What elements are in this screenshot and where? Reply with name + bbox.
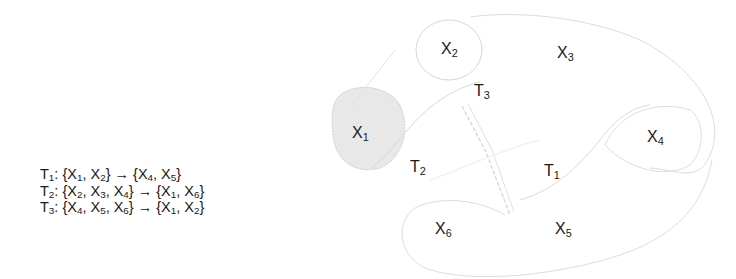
node-x4-sub: 4 [658,135,664,147]
t3-arrow [462,106,510,215]
node-x6-sub: 6 [446,227,452,239]
node-x2: X2 [441,40,458,58]
t1-curve [520,105,650,200]
node-x1-sub: 1 [363,131,369,143]
node-x3: X3 [557,44,574,62]
transition-t3: T3 [474,82,490,100]
transition-t2-sub: 2 [420,165,426,177]
node-x2-sub: 2 [452,47,458,59]
node-x5-sub: 5 [566,227,572,239]
node-x5: X5 [555,220,572,238]
node-x1: X1 [352,124,369,142]
center-faint-line [430,140,540,180]
transition-t1-sub: 1 [554,169,560,181]
t3-arrow-parallel [468,104,514,212]
transition-t2: T2 [410,158,426,176]
transition-t1: T1 [544,162,560,180]
node-x4: X4 [647,128,664,146]
node-x6: X6 [435,220,452,238]
node-x3-sub: 3 [568,51,574,63]
transition-t3-sub: 3 [484,89,490,101]
